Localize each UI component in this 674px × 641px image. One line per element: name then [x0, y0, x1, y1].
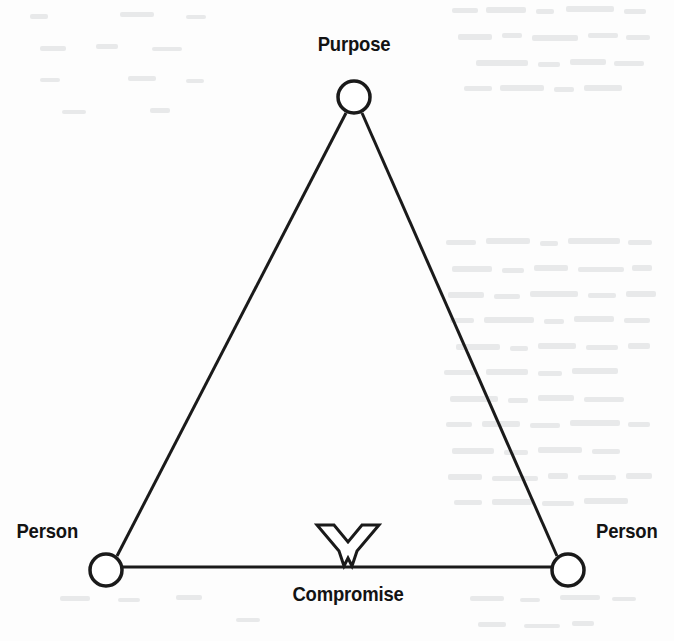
edge-purpose-to-person-right [362, 113, 557, 556]
triangle-relationship-diagram [0, 0, 674, 641]
node-label-person-left: Person [16, 519, 78, 543]
node-person-right [552, 554, 584, 586]
node-label-person-right: Person [596, 519, 658, 543]
node-purpose [338, 81, 370, 113]
edge-person-left-to-purpose [117, 113, 346, 556]
compromise-x-marker [317, 525, 379, 566]
node-label-purpose: Purpose [318, 32, 391, 56]
scanned-page: Purpose Person Person Compromise [0, 0, 674, 641]
node-person-left [90, 554, 122, 586]
marker-label-compromise: Compromise [292, 582, 403, 606]
